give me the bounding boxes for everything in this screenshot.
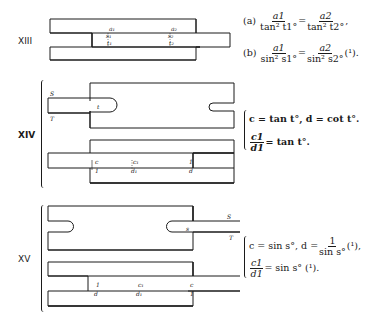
svg-text:s: s — [186, 225, 189, 232]
svg-text:s₂: s₂ — [168, 32, 174, 39]
svg-text:t₂: t₂ — [169, 39, 174, 46]
slide-rule-xiv-upper — [48, 83, 234, 128]
svg-text:T: T — [50, 115, 55, 122]
slide-rule-xiii — [50, 19, 230, 60]
equation-xiv-1: c = tan t°, d = cot t°. — [249, 114, 359, 124]
slide-rule-xv-lower — [48, 262, 240, 306]
svg-text:c₁: c₁ — [133, 158, 139, 165]
svg-text:c₁: c₁ — [138, 281, 144, 288]
svg-text:1: 1 — [95, 167, 99, 174]
svg-text:d₁: d₁ — [131, 167, 137, 174]
svg-text:t: t — [97, 103, 100, 110]
svg-text:t₁: t₁ — [107, 39, 112, 46]
svg-text:S: S — [227, 213, 231, 220]
equation-xiv-2: c1d1= tan t°. — [249, 132, 310, 153]
svg-text:S: S — [50, 90, 54, 97]
svg-text:s₁: s₁ — [106, 32, 111, 39]
svg-text:a₁: a₁ — [109, 25, 115, 32]
svg-text:d₁: d₁ — [136, 290, 142, 297]
svg-text:1: 1 — [96, 281, 100, 288]
equation-brace-xv — [244, 236, 248, 278]
svg-text:1: 1 — [190, 290, 194, 297]
equation-xv-2: c1d1= sin s° (¹). — [249, 258, 319, 279]
svg-text:c: c — [95, 158, 99, 165]
svg-text:d: d — [189, 167, 193, 174]
equation-xv-1: c = sin s°, d =1sin s°(¹), — [249, 236, 361, 257]
equation-xiii-a: (a) a1tan² t1°=a2tan² t2°, — [243, 11, 348, 32]
equation-brace-xiv — [244, 110, 248, 150]
svg-text:c: c — [190, 281, 194, 288]
svg-text:d: d — [94, 290, 98, 297]
slide-rule-xv-upper — [48, 206, 240, 250]
svg-text:T: T — [229, 234, 234, 241]
equation-xiii-b: (b) a1sin² s1°=a2sin² s2°(¹). — [243, 43, 359, 64]
slide-rule-xiv-lower — [48, 140, 234, 183]
svg-text:a₂: a₂ — [171, 25, 178, 32]
svg-text:1: 1 — [189, 158, 193, 165]
